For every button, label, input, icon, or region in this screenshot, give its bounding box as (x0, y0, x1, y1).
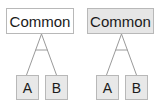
common-box-left: Common (6, 8, 74, 34)
child-box-a-left: A (16, 75, 39, 100)
child-box-b-left: B (45, 75, 68, 100)
child-box-a-right: A (96, 75, 119, 100)
generalization-arrow-left (27, 34, 57, 75)
child-box-b-right: B (125, 75, 148, 100)
common-box-right: Common (87, 8, 154, 34)
generalization-arrow-right (107, 34, 137, 75)
